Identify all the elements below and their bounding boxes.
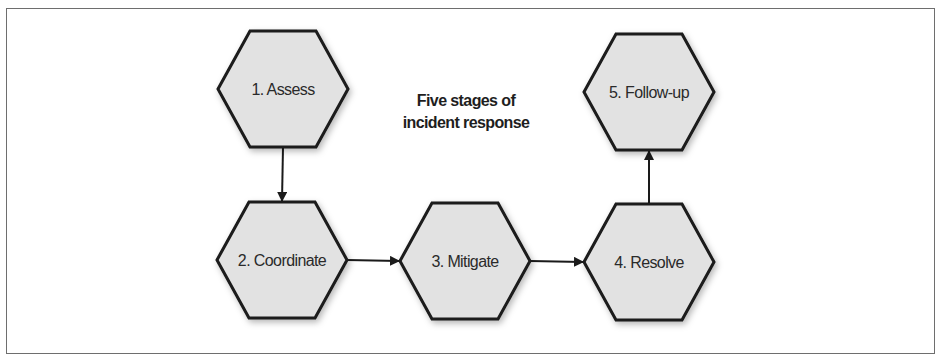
stage-label: 5. Follow-up [609,84,690,101]
diagram-title-line-2: incident response [403,114,530,131]
stage-label: 4. Resolve [614,254,684,271]
flow-arrow-3-to-4 [530,261,583,262]
stage-node-3: 3. Mitigate [400,203,530,319]
stage-label: 2. Coordinate [238,252,327,269]
stage-label: 3. Mitigate [431,253,499,270]
stage-node-2: 2. Coordinate [217,202,347,318]
diagram-title-line-1: Five stages of [417,92,517,109]
flow-arrow-1-to-2 [282,147,283,201]
stage-label: 1. Assess [251,81,315,98]
stage-node-1: 1. Assess [218,31,348,147]
flow-arrow-2-to-3 [347,260,399,261]
stage-node-5: 5. Follow-up [584,34,714,150]
incident-response-diagram: 1. Assess2. Coordinate3. Mitigate4. Reso… [0,0,941,359]
stage-node-4: 4. Resolve [584,204,714,320]
